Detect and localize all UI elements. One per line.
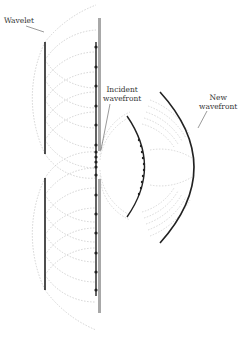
new-wavefront-label: New wavefront bbox=[199, 93, 237, 111]
huygens-diffraction-diagram bbox=[0, 0, 241, 340]
new-label-line2: wavefront bbox=[199, 102, 237, 111]
incident-leader-line bbox=[101, 104, 110, 150]
incident-label-line2: wavefront bbox=[103, 94, 141, 103]
incident-wavefront-label: Incident wavefront bbox=[103, 85, 141, 103]
wavelet-arcs-left bbox=[32, 5, 96, 330]
incident-label-line1: Incident bbox=[103, 85, 141, 94]
wavelet-leader-line bbox=[26, 26, 44, 32]
new-wavefront-leader-line bbox=[198, 111, 207, 128]
barrier-upper bbox=[98, 18, 101, 151]
new-label-line1: New bbox=[199, 93, 237, 102]
wavelet-label: Wavelet bbox=[4, 16, 34, 25]
middle-wavefront-arc bbox=[127, 116, 145, 217]
barrier-lower bbox=[98, 179, 101, 313]
